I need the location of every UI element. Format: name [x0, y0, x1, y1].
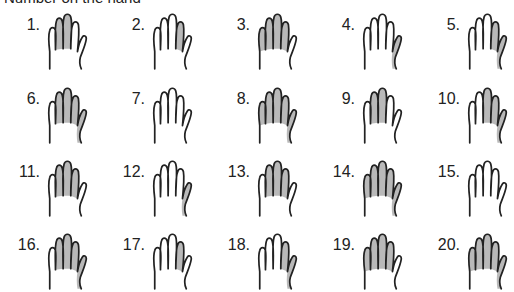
item-number: 14. [315, 163, 355, 181]
hand-outline [469, 161, 507, 216]
item-number: 16. [0, 236, 40, 254]
item-number: 11. [0, 163, 40, 181]
hand-icon [464, 86, 508, 146]
hand-icon [254, 232, 298, 292]
hand-item: 7. [105, 84, 210, 156]
hand-item: 8. [210, 84, 315, 156]
hand-icon [359, 159, 403, 219]
hand-item: 6. [0, 84, 105, 156]
hand-item: 16. [0, 230, 105, 292]
hand-item: 10. [420, 84, 514, 156]
hand-item: 9. [315, 84, 420, 156]
hand-icon [44, 12, 88, 72]
item-number: 1. [0, 16, 40, 34]
hand-icon [149, 86, 193, 146]
hand-item: 18. [210, 230, 315, 292]
hand-item: 1. [0, 10, 105, 82]
hand-item: 20. [420, 230, 514, 292]
item-number: 12. [105, 163, 145, 181]
hand-icon [44, 232, 88, 292]
item-number: 6. [0, 90, 40, 108]
item-number: 19. [315, 236, 355, 254]
hand-icon [149, 12, 193, 72]
item-number: 7. [105, 90, 145, 108]
hand-item: 2. [105, 10, 210, 82]
hand-item: 14. [315, 157, 420, 229]
hand-icon [149, 232, 193, 292]
hand-item: 5. [420, 10, 514, 82]
item-number: 20. [420, 236, 460, 254]
hand-icon [359, 232, 403, 292]
hand-item: 19. [315, 230, 420, 292]
hand-item: 15. [420, 157, 514, 229]
hands-grid: 1.2.3.4.5.6.7.8.9.10.11.12.13.14.15.16.1… [0, 0, 514, 292]
hand-icon [149, 159, 193, 219]
item-number: 18. [210, 236, 250, 254]
hand-item: 17. [105, 230, 210, 292]
hand-outline [154, 161, 192, 216]
hand-icon [44, 86, 88, 146]
hand-icon [464, 232, 508, 292]
hand-icon [359, 12, 403, 72]
hand-icon [359, 86, 403, 146]
hand-outline [154, 234, 192, 289]
hand-icon [464, 12, 508, 72]
item-number: 2. [105, 16, 145, 34]
hand-icon [254, 159, 298, 219]
hand-icon [44, 159, 88, 219]
hand-icon [254, 12, 298, 72]
hand-item: 4. [315, 10, 420, 82]
item-number: 15. [420, 163, 460, 181]
item-number: 5. [420, 16, 460, 34]
hand-item: 11. [0, 157, 105, 229]
item-number: 13. [210, 163, 250, 181]
item-number: 17. [105, 236, 145, 254]
hand-outline [364, 14, 402, 69]
hand-item: 12. [105, 157, 210, 229]
item-number: 9. [315, 90, 355, 108]
item-number: 4. [315, 16, 355, 34]
hand-outline [469, 14, 507, 69]
hand-icon [464, 159, 508, 219]
hand-item: 3. [210, 10, 315, 82]
item-number: 10. [420, 90, 460, 108]
item-number: 8. [210, 90, 250, 108]
hand-icon [254, 86, 298, 146]
hand-outline [154, 14, 192, 69]
hand-outline [154, 88, 192, 143]
hand-outline [259, 234, 297, 289]
hand-item: 13. [210, 157, 315, 229]
item-number: 3. [210, 16, 250, 34]
